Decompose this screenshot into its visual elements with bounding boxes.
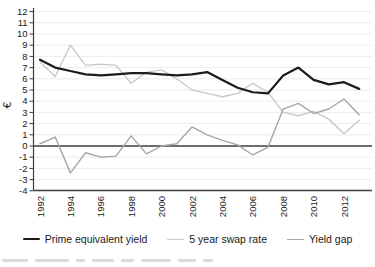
x-tick-label: 1992 — [35, 196, 46, 217]
x-tick-label: 2008 — [278, 196, 289, 217]
x-tick-label: 2000 — [156, 196, 167, 217]
y-tick-label: 9 — [22, 39, 27, 50]
x-tick-label: 2004 — [217, 196, 228, 217]
yield-chart-figure: 1211109876543210-1-2-3-41992199419961998… — [0, 0, 375, 267]
y-tick-label: 4 — [22, 95, 27, 106]
y-tick-label: 2 — [22, 118, 27, 129]
x-tick-label: 2010 — [308, 196, 319, 217]
y-tick-label: 6 — [22, 73, 27, 84]
x-tick-label: 2012 — [339, 196, 350, 217]
x-tick-label: 1996 — [95, 196, 106, 217]
legend-label-5-year-swap-rate: 5 year swap rate — [189, 233, 267, 245]
series-line-yield-gap — [40, 99, 359, 173]
y-tick-label: -4 — [19, 185, 27, 196]
y-tick-label: 7 — [22, 62, 27, 73]
y-tick-label: 12 — [17, 6, 28, 17]
y-axis-label: € — [1, 102, 14, 109]
y-tick-label: 0 — [22, 140, 27, 151]
x-tick-label: 2006 — [247, 196, 258, 217]
y-tick-label: 10 — [17, 28, 28, 39]
legend-item-yield-gap: Yield gap — [287, 233, 352, 245]
legend-label-prime-equivalent-yield: Prime equivalent yield — [45, 233, 148, 245]
x-tick-label: 2002 — [187, 196, 198, 217]
legend-item-prime-equivalent-yield: Prime equivalent yield — [23, 233, 148, 245]
legend-label-yield-gap: Yield gap — [309, 233, 352, 245]
y-tick-label: -2 — [19, 163, 27, 174]
legend-line-yield-gap-icon — [287, 239, 304, 240]
legend-line-prime-equivalent-yield-icon — [23, 238, 40, 240]
x-tick-label: 1998 — [126, 196, 137, 217]
y-tick-label: -1 — [19, 151, 27, 162]
chart-svg: 1211109876543210-1-2-3-41992199419961998… — [0, 0, 375, 232]
y-tick-label: 3 — [22, 107, 27, 118]
y-tick-label: 1 — [22, 129, 27, 140]
x-tick-label: 1994 — [65, 196, 76, 217]
y-tick-label: 11 — [18, 17, 28, 28]
chart-legend: Prime equivalent yield 5 year swap rate … — [0, 233, 375, 245]
legend-item-5-year-swap-rate: 5 year swap rate — [167, 233, 267, 245]
y-tick-label: 8 — [22, 51, 27, 62]
series-line-5-year-swap-rate — [40, 45, 359, 133]
y-tick-label: 5 — [22, 84, 27, 95]
cropped-caption-remnant — [2, 259, 232, 263]
legend-line-5-year-swap-rate-icon — [167, 239, 184, 240]
y-tick-label: -3 — [19, 174, 27, 185]
